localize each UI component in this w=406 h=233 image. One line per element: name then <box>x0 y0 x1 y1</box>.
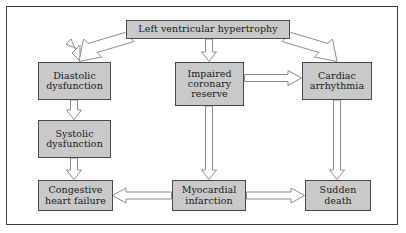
node-congestive-heart-failure: Congestive heart failure <box>38 180 113 211</box>
node-label: Cardiac arrhythmia <box>305 71 369 92</box>
arrow-lvh-to-cardiac <box>282 33 337 62</box>
node-sudden-death: Sudden death <box>305 180 371 211</box>
arrow-impaired-to-myocardial <box>202 106 217 180</box>
arrow-systolic-to-congestive <box>67 158 82 180</box>
node-label: Impaired coronary reserve <box>178 69 241 100</box>
arrow-lvh-to-impaired <box>202 39 217 62</box>
node-label: Myocardial infarction <box>175 185 243 206</box>
arrow-myocardial-to-sudden <box>247 188 305 203</box>
node-myocardial-infarction: Myocardial infarction <box>172 180 246 211</box>
diagram-root: Left ventricular hypertrophy Diastolic d… <box>0 0 406 233</box>
node-label: Sudden death <box>308 185 368 206</box>
arrow-impaired-to-cardiac <box>245 71 302 86</box>
node-label: Systolic dysfunction <box>41 129 108 150</box>
node-label: Congestive heart failure <box>41 185 110 206</box>
node-label: Left ventricular hypertrophy <box>129 24 287 34</box>
node-diastolic-dysfunction: Diastolic dysfunction <box>38 62 111 100</box>
node-cardiac-arrhythmia: Cardiac arrhythmia <box>302 62 372 100</box>
node-left-ventricular-hypertrophy: Left ventricular hypertrophy <box>126 20 290 39</box>
node-systolic-dysfunction: Systolic dysfunction <box>38 120 111 158</box>
arrow-cardiac-to-sudden <box>330 100 345 180</box>
arrow-diastolic-to-systolic <box>67 100 82 120</box>
arrow-myocardial-to-congestive <box>113 188 172 203</box>
node-label: Diastolic dysfunction <box>41 71 108 92</box>
node-impaired-coronary-reserve: Impaired coronary reserve <box>175 62 244 106</box>
